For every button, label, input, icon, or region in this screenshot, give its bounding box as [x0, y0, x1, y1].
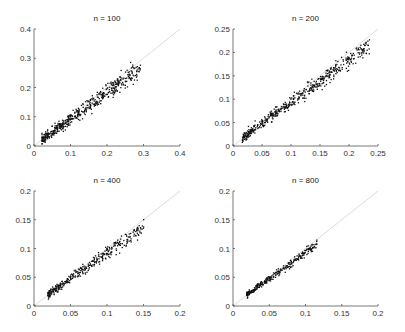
x-tick-label: 0.1 — [65, 149, 77, 158]
y-tick-label: 0.15 — [214, 216, 230, 225]
x-tick-label: 0.05 — [254, 149, 270, 158]
x-tick-label: 0 — [231, 149, 236, 158]
x-tick-label: 0.3 — [138, 149, 150, 158]
y-tick-label: 0.1 — [20, 113, 32, 122]
x-tick-label: 0 — [32, 149, 37, 158]
y-tick-label: 0 — [226, 302, 231, 311]
x-tick-label: 0.1 — [285, 149, 297, 158]
subplot-n400: n = 40000.050.10.150.200.050.10.150.2 — [15, 176, 186, 318]
x-tick-label: 0.05 — [261, 309, 277, 318]
x-tick-label: 0 — [32, 309, 37, 318]
y-tick-label: 0.4 — [20, 25, 32, 34]
y-tick-label: 0.1 — [20, 245, 32, 254]
subplot-title: n = 800 — [292, 176, 319, 185]
y-tick-label: 0.15 — [214, 72, 230, 81]
y-tick-label: 0.2 — [219, 187, 231, 196]
x-tick-label: 0.4 — [174, 149, 186, 158]
subplot-n800: n = 80000.050.10.150.200.050.10.150.2 — [214, 176, 384, 318]
x-tick-label: 0.15 — [136, 309, 152, 318]
figure: n = 10000.10.20.30.400.10.20.30.4 n = 20… — [0, 0, 405, 332]
subplot-title: n = 200 — [292, 14, 319, 23]
reference-line — [233, 29, 378, 146]
y-tick-label: 0.05 — [214, 273, 230, 282]
x-tick-label: 0.2 — [174, 309, 186, 318]
y-tick-label: 0.2 — [20, 187, 32, 196]
subplot-title: n = 400 — [94, 176, 121, 185]
subplot-n100: n = 10000.10.20.30.400.10.20.30.4 — [20, 14, 186, 158]
scatter-points — [242, 39, 370, 143]
x-tick-label: 0.1 — [300, 309, 312, 318]
x-tick-label: 0.2 — [343, 149, 355, 158]
y-tick-label: 0 — [226, 142, 231, 151]
x-tick-label: 0.1 — [101, 309, 113, 318]
y-tick-label: 0.2 — [219, 48, 231, 57]
y-tick-label: 0.1 — [219, 95, 231, 104]
y-tick-label: 0.3 — [20, 54, 32, 63]
y-tick-label: 0.2 — [20, 84, 32, 93]
subplot-title: n = 100 — [94, 14, 121, 23]
y-tick-label: 0.1 — [219, 245, 231, 254]
y-tick-label: 0.05 — [15, 273, 31, 282]
x-tick-label: 0.25 — [370, 149, 386, 158]
y-tick-label: 0.25 — [214, 25, 230, 34]
x-tick-label: 0.2 — [101, 149, 113, 158]
subplot-n200: n = 20000.050.10.150.20.2500.050.10.150.… — [214, 14, 386, 158]
scatter-points — [41, 62, 141, 145]
y-tick-label: 0.05 — [214, 119, 230, 128]
y-tick-label: 0 — [27, 302, 32, 311]
scatter-points — [246, 240, 317, 299]
y-tick-label: 0 — [27, 142, 32, 151]
x-tick-label: 0 — [231, 309, 236, 318]
y-tick-label: 0.15 — [15, 216, 31, 225]
x-tick-label: 0.2 — [372, 309, 384, 318]
x-tick-label: 0.15 — [312, 149, 328, 158]
x-tick-label: 0.05 — [63, 309, 79, 318]
x-tick-label: 0.15 — [334, 309, 350, 318]
